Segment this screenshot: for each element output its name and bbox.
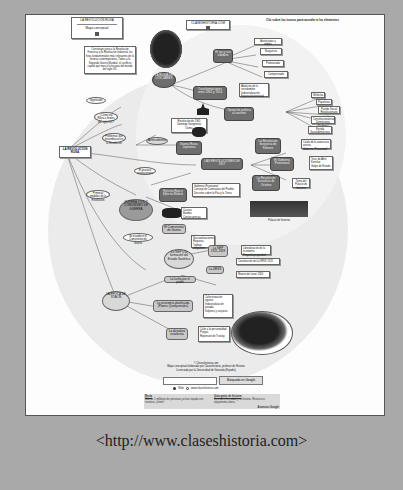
node-nep[interactable]: La NEP y la formación del Estado Soviéti… bbox=[164, 249, 194, 269]
site-label-box[interactable]: CLASESHISTORIA.COM bbox=[186, 20, 230, 30]
info-icon[interactable] bbox=[95, 32, 99, 36]
radio-web[interactable] bbox=[173, 387, 176, 390]
link-icon[interactable] bbox=[206, 26, 210, 30]
provisional-items: Gobierno Provisional Consejo de Comisari… bbox=[192, 183, 240, 197]
edge-significance: Significado bbox=[86, 97, 106, 104]
node-war-1905[interactable]: Guerra Ruso-Japonesa bbox=[176, 141, 202, 155]
opposition-item-1[interactable]: Populistas bbox=[316, 99, 332, 105]
radio-site-label: www.claseshistoria.com bbox=[190, 386, 230, 390]
social-item-1[interactable]: Burguesía bbox=[260, 48, 282, 55]
node-nep-years[interactable]: La NEP 1921-1928 bbox=[208, 245, 228, 257]
node-civil-war[interactable]: GUERRA CIVIL Y COMUNISMO DE GUERRA bbox=[119, 199, 153, 221]
search-input[interactable] bbox=[163, 377, 217, 385]
map-title: LA REVOLUCIÓN RUSA bbox=[73, 19, 121, 22]
map-instruction: Clic sobre los iconos para acceder a los… bbox=[266, 18, 386, 22]
credits: © Claseshistoria.com Mapa conceptual ela… bbox=[146, 361, 266, 373]
planned-items: Colectivización agraria Industrializació… bbox=[203, 294, 233, 318]
radio-web-label: Web bbox=[177, 386, 185, 390]
social-item-2[interactable]: Proletariado bbox=[262, 60, 284, 67]
radio-site[interactable] bbox=[186, 387, 189, 390]
ussr-items-b: Muerte de Lenin 1924 bbox=[236, 271, 270, 278]
google-ads-box: Rusia Más de 1 millones de personas ya h… bbox=[144, 394, 280, 409]
eagle-small-icon bbox=[192, 127, 206, 137]
node-social-classes[interactable]: El zar y sus súbditos bbox=[213, 49, 233, 63]
edge-war-communism: Se establece el Comunismo de Guerra bbox=[123, 233, 153, 242]
social-item-0[interactable]: Aristócratas y nobles bbox=[254, 38, 282, 45]
nep-items: Liberalización de la economía Pequeña pr… bbox=[241, 245, 271, 255]
node-political-opposition[interactable]: Oposición política al zarismo bbox=[224, 107, 254, 121]
ad-left-text: Más de 1 millones de personas ya han via… bbox=[145, 398, 209, 404]
edge-russia-xix: ¿Cómo era Rusia a finales del siglo XIX? bbox=[94, 112, 118, 122]
node-october[interactable]: La Revolución Socialista de Octubre bbox=[252, 175, 280, 191]
winter-palace-image bbox=[250, 201, 308, 217]
google-ads-label[interactable]: Anuncios Google bbox=[258, 406, 279, 409]
dictatorship-items: Culto a la personalidad Purgas Represión… bbox=[198, 326, 230, 342]
node-planned-economy[interactable]: La economía planificada (Planes Quinquen… bbox=[153, 300, 193, 312]
node-stalin-era[interactable]: LA ÉPOCA DE STALIN bbox=[102, 291, 130, 311]
february-items: Caída de la autocracia zarista Gobierno … bbox=[301, 139, 331, 149]
google-search-button[interactable]: Búsqueda en Google bbox=[219, 376, 263, 385]
map-subtitle: Mapa conceptual bbox=[73, 27, 121, 30]
title-box[interactable]: LA REVOLUCIÓN RUSA Mapa conceptual bbox=[71, 17, 123, 39]
civil-war-items: Causas Bandos Consecuencias bbox=[181, 207, 207, 219]
edge-problems: Problemas que desembocan en la Revolució… bbox=[102, 133, 126, 143]
winter-palace-caption: Palacio de Invierno bbox=[262, 218, 296, 223]
opposition-item-0[interactable]: Nihilistas bbox=[311, 92, 325, 98]
ad-right-text: Descubre la ciudad y su historia. Reserv… bbox=[214, 398, 278, 404]
stalin-poster-image bbox=[231, 311, 293, 355]
october-items: Toma del Palacio de Invierno bbox=[292, 178, 310, 188]
edge-first-measures: Primeras medidas de la Revolución bbox=[86, 190, 110, 199]
social-item-3[interactable]: Campesinado bbox=[264, 71, 288, 78]
node-ussr[interactable]: La URSS bbox=[206, 266, 224, 274]
opposition-item-2[interactable]: Partido Social Revolucionario bbox=[318, 106, 340, 114]
node-power-struggle[interactable]: La lucha por el poder bbox=[164, 276, 196, 283]
node-civil-war-sides[interactable]: Ejército Rojo y Ejército Blanco bbox=[159, 188, 187, 202]
page-frame: Clic sobre los iconos para acceder a los… bbox=[25, 14, 385, 416]
opposition-item-3[interactable]: Constitucionalistas Demócratas (Kadetes) bbox=[311, 116, 335, 124]
node-background[interactable]: Antecedentes bbox=[146, 137, 168, 145]
edge-process: El proceso revolucionario bbox=[134, 167, 156, 175]
intro-text-box: Constituye junto a la Revolución Frances… bbox=[84, 46, 136, 74]
dual-power-items: Tesis de Abril Kornilov Golpe de Estado bbox=[309, 156, 333, 170]
node-revolutions-1917[interactable]: LAS REVOLUCIONES DE 1917 bbox=[201, 158, 243, 170]
root-node[interactable]: LA REVOLUCIÓN RUSA bbox=[59, 146, 91, 158]
node-dictatorship[interactable]: La dictadura estalinista bbox=[166, 328, 188, 340]
node-dual-power[interactable]: El Gobierno Provisional bbox=[270, 157, 294, 171]
node-february[interactable]: La Revolución burguesa de Febrero bbox=[255, 138, 281, 154]
imperial-eagle-icon bbox=[150, 30, 182, 68]
ussr-items-a: Constitución de la URSS 1922 bbox=[236, 258, 280, 265]
site-label: CLASESHISTORIA.COM bbox=[188, 22, 228, 25]
transformations-list: Abolición de la servidumbre Industrializ… bbox=[239, 83, 269, 97]
node-transformations[interactable]: Transformaciones entre 1861 y 1914 bbox=[193, 86, 227, 100]
intro-text: Constituye junto a la Revolución Frances… bbox=[86, 48, 134, 72]
soldiers-icon bbox=[162, 208, 182, 218]
source-url-caption: <http://www.claseshistoria.com> bbox=[0, 432, 403, 450]
node-tsarist-russia[interactable]: LA RUSIA DE LOS ZARES bbox=[152, 72, 176, 88]
node-war-communism[interactable]: El Comunismo de Guerra bbox=[162, 224, 186, 234]
opposition-item-4[interactable]: Partido Socialdemócrata bbox=[308, 126, 332, 134]
